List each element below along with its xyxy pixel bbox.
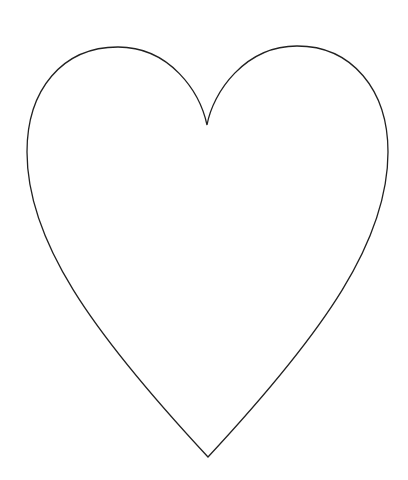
heart-outline-icon [0, 0, 408, 480]
heart-shape [27, 46, 388, 457]
drawing-canvas [0, 0, 408, 480]
